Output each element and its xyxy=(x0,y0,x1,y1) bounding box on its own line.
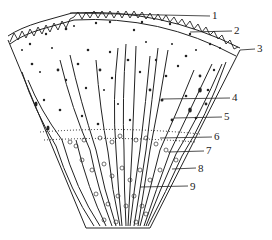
crown-outer xyxy=(8,12,240,48)
crown-inner xyxy=(10,19,236,56)
label-6: 6 xyxy=(214,131,220,142)
label-4: 4 xyxy=(232,92,238,103)
tissue-wedge-diagram xyxy=(0,0,272,240)
crown-zigzag xyxy=(10,11,238,49)
label-1: 1 xyxy=(212,10,218,21)
label-8: 8 xyxy=(198,163,204,174)
label-2: 2 xyxy=(234,25,240,36)
label-5: 5 xyxy=(224,111,230,122)
label-7: 7 xyxy=(206,145,212,156)
label-9: 9 xyxy=(190,181,196,192)
label-3: 3 xyxy=(257,43,263,54)
